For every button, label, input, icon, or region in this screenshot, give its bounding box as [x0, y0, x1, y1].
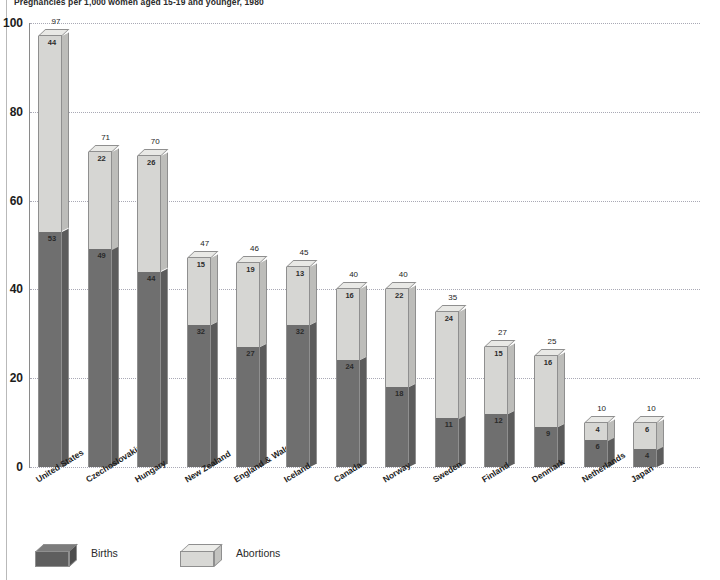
bar-value-label-abortions: 15: [189, 261, 213, 269]
bar-value-label-abortions: 22: [387, 292, 411, 300]
bar-face-front: [286, 325, 310, 467]
bar-segment-births[interactable]: 32: [187, 325, 211, 467]
births-swatch: [35, 544, 69, 562]
bar-column[interactable]: 3213: [286, 267, 310, 467]
bar-face-side: [112, 148, 119, 249]
bar-segment-abortions[interactable]: 15: [484, 347, 508, 414]
bar-total-label: 10: [585, 405, 619, 413]
bar-total-label: 40: [386, 271, 420, 279]
bar-total-label: 10: [634, 405, 668, 413]
chart-page: Pregnancies per 1,000 women aged 15-19 a…: [0, 0, 720, 580]
bar-segment-abortions[interactable]: 26: [137, 156, 161, 271]
y-axis-tick-label: 20: [0, 371, 23, 385]
bar-face-front: [88, 152, 112, 250]
chart-legend: BirthsAbortions: [30, 538, 690, 578]
bar-column[interactable]: 1124: [435, 312, 459, 467]
bar-face-front: [187, 325, 211, 467]
bar-segment-births[interactable]: 18: [385, 387, 409, 467]
bar-segment-abortions[interactable]: 22: [88, 152, 112, 250]
bar-value-label-births: 6: [586, 443, 610, 451]
bar-face-front: [336, 360, 360, 467]
bar-face-side: [62, 228, 69, 467]
bar-face-front: [137, 156, 161, 271]
bar-total-label: 70: [138, 138, 172, 146]
bar-value-label-abortions: 16: [338, 292, 362, 300]
bar-face-side: [62, 33, 69, 232]
bar-segment-births[interactable]: 53: [38, 232, 62, 467]
bar-column[interactable]: 4426: [137, 156, 161, 467]
bar-face-front: [38, 36, 62, 231]
bar-segment-births[interactable]: 44: [137, 272, 161, 467]
bar-value-label-abortions: 44: [40, 39, 64, 47]
bar-face-front: [236, 347, 260, 467]
bar-column[interactable]: 4922: [88, 152, 112, 467]
bar-value-label-births: 9: [536, 430, 560, 438]
legend-label: Abortions: [236, 547, 280, 559]
bar-face-front: [336, 289, 360, 360]
gridline: [30, 112, 700, 113]
bar-value-label-births: 32: [189, 328, 213, 336]
bar-column[interactable]: 5344: [38, 36, 62, 467]
bar-column[interactable]: 916: [534, 356, 558, 467]
bar-segment-abortions[interactable]: 6: [633, 423, 657, 450]
bar-total-label: 25: [535, 338, 569, 346]
bar-segment-abortions[interactable]: 44: [38, 36, 62, 231]
bar-face-front: [137, 272, 161, 467]
bar-value-label-abortions: 15: [486, 350, 510, 358]
bar-value-label-births: 18: [387, 390, 411, 398]
bar-face-side: [260, 344, 267, 467]
bar-value-label-abortions: 4: [586, 426, 610, 434]
legend-swatch-front: [180, 551, 214, 567]
y-axis-tick-label: 40: [0, 282, 23, 296]
bar-total-label: 47: [188, 240, 222, 248]
bar-column[interactable]: 2719: [236, 263, 260, 467]
bar-segment-abortions[interactable]: 22: [385, 289, 409, 387]
bar-segment-abortions[interactable]: 13: [286, 267, 310, 325]
bar-column[interactable]: 46: [633, 423, 657, 467]
bar-segment-abortions[interactable]: 16: [336, 289, 360, 360]
plot-area: 020406080100534497United States492271Cze…: [0, 0, 720, 580]
gridline: [30, 23, 700, 24]
bar-segment-abortions[interactable]: 16: [534, 356, 558, 427]
y-axis-tick-label: 0: [0, 460, 23, 474]
bar-face-side: [409, 286, 416, 387]
bar-column[interactable]: 3215: [187, 258, 211, 467]
bar-value-label-births: 53: [40, 235, 64, 243]
bar-value-label-abortions: 19: [238, 266, 262, 274]
bar-face-side: [112, 246, 119, 467]
bar-face-side: [459, 308, 466, 418]
bar-face-front: [38, 232, 62, 467]
legend-swatch-front: [35, 551, 69, 567]
bar-value-label-abortions: 26: [139, 159, 163, 167]
bar-face-side: [360, 357, 367, 467]
bar-segment-births[interactable]: 49: [88, 249, 112, 467]
y-axis-line: [29, 23, 30, 468]
bar-column[interactable]: 2416: [336, 289, 360, 467]
bar-segment-births[interactable]: 24: [336, 360, 360, 467]
bar-column[interactable]: 1215: [484, 347, 508, 467]
bar-value-label-abortions: 16: [536, 359, 560, 367]
bar-value-label-births: 27: [238, 350, 262, 358]
bar-segment-abortions[interactable]: 19: [236, 263, 260, 347]
gridline: [30, 201, 700, 202]
bar-face-front: [385, 289, 409, 387]
bar-face-front: [385, 387, 409, 467]
bar-face-side: [161, 268, 168, 467]
bar-segment-births[interactable]: 27: [236, 347, 260, 467]
bar-value-label-births: 24: [338, 363, 362, 371]
bar-segment-abortions[interactable]: 4: [584, 423, 608, 441]
bar-segment-births[interactable]: 32: [286, 325, 310, 467]
bar-face-side: [161, 153, 168, 272]
bar-segment-abortions[interactable]: 15: [187, 258, 211, 325]
bar-segment-abortions[interactable]: 24: [435, 312, 459, 419]
legend-label: Births: [91, 547, 118, 559]
bar-column[interactable]: 1822: [385, 289, 409, 467]
bar-total-label: 71: [89, 134, 123, 142]
bar-value-label-abortions: 6: [635, 426, 659, 434]
bar-face-front: [435, 312, 459, 419]
bar-total-label: 35: [436, 294, 470, 302]
bar-total-label: 46: [237, 245, 271, 253]
bar-face-front: [88, 249, 112, 467]
bar-face-side: [657, 419, 664, 449]
bar-value-label-abortions: 22: [90, 155, 114, 163]
